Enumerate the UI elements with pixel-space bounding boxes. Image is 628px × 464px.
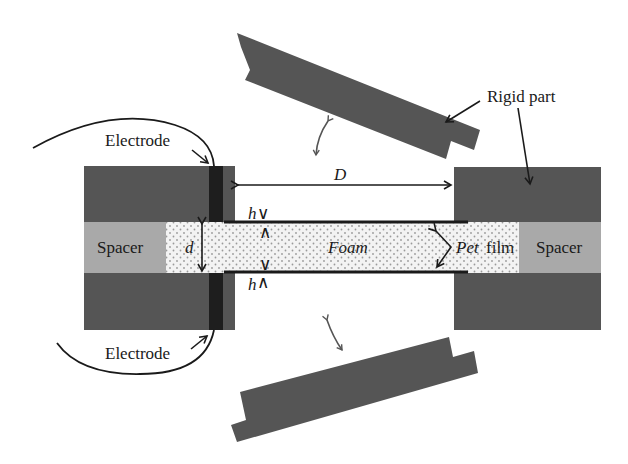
label-h-top: h bbox=[248, 204, 257, 223]
electrode-bottom-pointer bbox=[191, 336, 207, 349]
rigid-part-top-tilted bbox=[237, 33, 480, 159]
right-rigid-top bbox=[454, 167, 601, 222]
label-rigid-part: Rigid part bbox=[487, 87, 556, 106]
rigid-part-pointer-tilted bbox=[446, 101, 480, 122]
label-gap-D: D bbox=[333, 165, 347, 184]
electrode-bottom bbox=[209, 273, 223, 330]
label-electrode-top: Electrode bbox=[105, 131, 170, 150]
rotation-arrow-bottom bbox=[327, 320, 342, 350]
label-spacer-right: Spacer bbox=[536, 238, 583, 257]
label-h-bottom: h bbox=[248, 275, 257, 294]
h-top-marker-down: ∨ bbox=[257, 204, 269, 223]
h-bottom-marker-down: ∨ bbox=[259, 255, 271, 274]
rotation-arrow-top bbox=[316, 121, 328, 155]
h-top-marker-up: ∧ bbox=[259, 223, 271, 242]
label-foam: Foam bbox=[327, 238, 368, 257]
electrode-top-pointer bbox=[192, 150, 208, 163]
label-spacer-left: Spacer bbox=[97, 238, 144, 257]
label-electrode-bottom: Electrode bbox=[105, 344, 170, 363]
foam-sensor-diagram: Electrode Electrode Rigid part Spacer Sp… bbox=[0, 0, 628, 464]
label-pet: Pet bbox=[455, 238, 480, 257]
rigid-part-bottom-tilted bbox=[231, 337, 478, 442]
right-rigid-bottom bbox=[454, 273, 601, 330]
h-bottom-marker-up: ∧ bbox=[257, 273, 269, 292]
electrode-top bbox=[209, 166, 223, 222]
label-thickness-d: d bbox=[185, 238, 194, 257]
label-film: film bbox=[486, 238, 514, 257]
